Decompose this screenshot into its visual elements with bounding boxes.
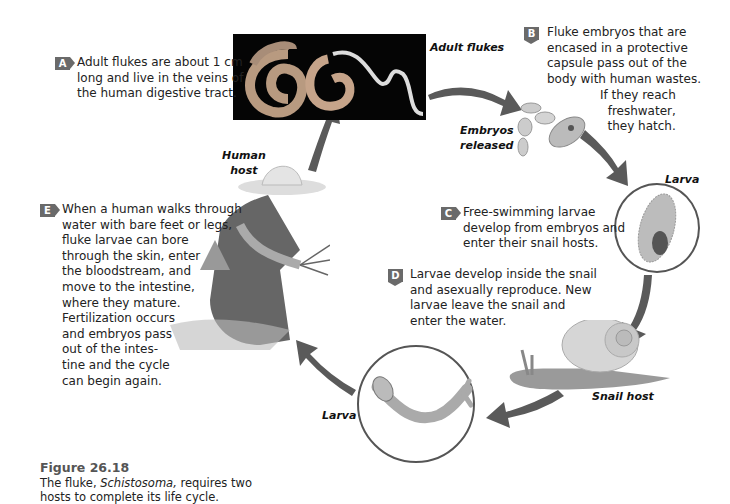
- snail-illustration-icon: [500, 320, 680, 395]
- step-e-text: When a human walks through water with ba…: [62, 202, 242, 389]
- step-b-text: Fluke embryos that are encased in a prot…: [547, 25, 701, 87]
- figure-caption: The fluke, Schistosoma, requires two hos…: [40, 476, 252, 504]
- larva-circle-top: [614, 183, 700, 273]
- arrow-snail-to-larva: [486, 390, 564, 428]
- embryos-illustration-icon: [515, 100, 595, 160]
- badge-c: C: [441, 207, 456, 220]
- figure-number: Figure 26.18: [40, 460, 129, 475]
- flukes-illustration-icon: [233, 34, 426, 120]
- caption-pre: The fluke,: [40, 476, 100, 490]
- step-c-text: Free-swimming larvae develop from embryo…: [463, 205, 625, 252]
- badge-d: D: [388, 269, 403, 282]
- label-snail-host: Snail host: [592, 389, 654, 404]
- caption-genus: Schistosoma,: [100, 476, 177, 490]
- badge-e: E: [40, 204, 55, 217]
- label-embryos-released: Embryos released: [460, 123, 514, 153]
- cercaria-larva-icon: [359, 347, 473, 461]
- step-b-text-extra: If they reach freshwater, they hatch.: [600, 88, 676, 135]
- step-a-text: Adult flukes are about 1 cm long and liv…: [77, 55, 243, 102]
- badge-b: B: [524, 27, 539, 40]
- label-adult-flukes: Adult flukes: [430, 40, 504, 55]
- label-larva-bottom: Larva: [322, 408, 356, 423]
- miracidium-larva-icon: [616, 185, 698, 271]
- adult-flukes-photo: [233, 34, 426, 120]
- arrow-adults-to-embryos: [428, 88, 522, 116]
- badge-a: A: [55, 57, 70, 70]
- larva-circle-bottom: [357, 345, 475, 463]
